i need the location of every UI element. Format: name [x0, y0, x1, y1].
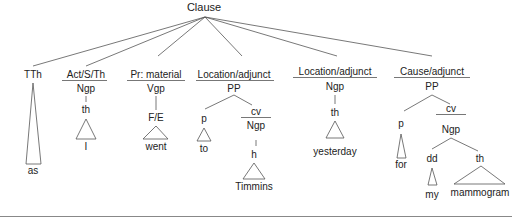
- p-label: p: [398, 118, 404, 129]
- th-label: th: [476, 153, 484, 164]
- dd-label: dd: [426, 153, 437, 164]
- leaf-mammogram: mammogram: [451, 187, 510, 198]
- ngp-label: Ngp: [326, 81, 344, 92]
- leaf-yesterday: yesterday: [313, 146, 356, 157]
- th-label: th: [82, 104, 90, 115]
- cv-underline: [241, 117, 271, 118]
- leaf-i: I: [85, 141, 88, 152]
- p-label: p: [201, 113, 207, 124]
- function-underline: [62, 80, 107, 81]
- function-underline: [127, 80, 185, 81]
- ngp-label: Ngp: [442, 124, 460, 135]
- pp-label: PP: [425, 81, 438, 92]
- root-clause-label: Clause: [187, 2, 221, 13]
- function-underline: [196, 80, 274, 81]
- leaf-went: went: [145, 141, 166, 152]
- h-label: h: [251, 149, 257, 160]
- function-underline: [394, 77, 470, 78]
- leaf-for: for: [395, 159, 407, 170]
- fe-label: F/E: [148, 112, 164, 123]
- ngp-label: Ngp: [247, 120, 265, 131]
- cv-underline: [436, 114, 466, 115]
- vgp-label: Vgp: [147, 83, 165, 94]
- leaf-my: my: [425, 189, 438, 200]
- leaf-to: to: [200, 143, 208, 154]
- location-adjunct-label: Location/adjunct: [299, 66, 372, 77]
- function-underline: [293, 77, 377, 78]
- act-s-th-label: Act/S/Th: [67, 69, 105, 80]
- ngp-label: Ngp: [77, 83, 95, 94]
- syntax-tree-diagram: Clause TTh as Act/S/Th Ngp th I Pr: mate…: [0, 0, 512, 219]
- th-label: th: [331, 107, 339, 118]
- cv-label: cv: [251, 106, 261, 117]
- cv-label: cv: [446, 103, 456, 114]
- leaf-as: as: [28, 165, 39, 176]
- leaf-timmins: Timmins: [235, 181, 272, 192]
- cause-adjunct-label: Cause/adjunct: [400, 66, 464, 77]
- bottom-divider: [0, 216, 512, 217]
- pp-label: PP: [227, 83, 240, 94]
- location-adjunct-label: Location/adjunct: [198, 69, 271, 80]
- pr-material-label: Pr: material: [130, 69, 181, 80]
- tth-label: TTh: [24, 69, 42, 80]
